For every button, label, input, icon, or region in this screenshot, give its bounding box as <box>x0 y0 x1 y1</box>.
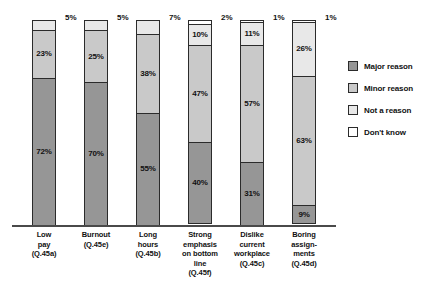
category-label-line: (Q.45b) <box>123 249 173 259</box>
outside-value-label-low-pay: 5% <box>65 14 77 22</box>
bar-segment-bottom-line-3: 40% <box>188 142 212 224</box>
category-label-line: current <box>227 240 277 250</box>
bar-segment-low-pay-2: 72% <box>32 78 56 226</box>
legend-item-1: Minor reason <box>348 77 444 99</box>
axis-baseline <box>12 225 336 227</box>
outside-value-label-bottom-line: 2% <box>221 14 233 22</box>
bar-dislike-workplace: 11%57%31% <box>240 14 264 226</box>
category-label-low-pay: Lowpay(Q.45a) <box>19 230 69 259</box>
bar-low-pay: 23%72% <box>32 14 56 226</box>
category-label-burnout: Burnout(Q.45e) <box>71 230 121 249</box>
bar-segment-dislike-workplace-1: 11% <box>240 22 264 45</box>
bar-segment-burnout-2: 70% <box>84 82 108 226</box>
category-label-line: Boring <box>279 230 329 240</box>
legend-item-0: Major reason <box>348 55 444 77</box>
bar-long-hours: 38%55% <box>136 14 160 226</box>
category-label-line: (Q.45e) <box>71 240 121 250</box>
category-label-line: Strong <box>175 230 225 240</box>
category-label-bottom-line: Strongemphasison bottomline(Q.45f) <box>175 230 225 278</box>
segment-value-label: 40% <box>192 179 207 187</box>
category-label-line: Burnout <box>71 230 121 240</box>
category-label-line: (Q.45c) <box>227 259 277 269</box>
segment-value-label: 25% <box>88 53 103 61</box>
bar-segment-long-hours-0 <box>136 20 160 34</box>
bar-segment-boring-assignments-1: 26% <box>292 22 316 76</box>
bar-stack: 23%72% <box>32 20 56 226</box>
segment-value-label: 10% <box>192 31 207 39</box>
bar-stack: 26%63%9% <box>292 20 316 226</box>
category-label-line: Dislike <box>227 230 277 240</box>
segment-value-label: 63% <box>296 137 311 145</box>
bar-stack: 10%47%40% <box>188 20 212 226</box>
category-label-line: emphasis <box>175 240 225 250</box>
legend-label: Not a reason <box>364 106 411 115</box>
bar-segment-low-pay-1: 23% <box>32 30 56 77</box>
bar-segment-boring-assignments-2: 63% <box>292 76 316 206</box>
segment-value-label: 11% <box>245 30 260 38</box>
bar-segment-burnout-0 <box>84 20 108 30</box>
segment-value-label: 26% <box>296 45 311 53</box>
legend-item-2: Not a reason <box>348 99 444 121</box>
bar-segment-dislike-workplace-2: 57% <box>240 45 264 162</box>
outside-value-label-long-hours: 7% <box>169 14 181 22</box>
segment-value-label: 72% <box>36 148 51 156</box>
bar-boring-assignments: 26%63%9% <box>292 14 316 226</box>
bar-segment-bottom-line-1: 10% <box>188 24 212 45</box>
stacked-bar-chart: 23%72%5%25%70%5%38%55%7%10%47%40%2%11%57… <box>0 0 444 293</box>
legend-swatch-icon <box>348 105 358 115</box>
bar-segment-long-hours-1: 38% <box>136 34 160 112</box>
category-label-line: pay <box>19 240 69 250</box>
legend-label: Don't know <box>364 128 406 137</box>
bar-stack: 38%55% <box>136 20 160 226</box>
category-axis-labels: Lowpay(Q.45a)Burnout(Q.45e)Longhours(Q.4… <box>18 230 328 290</box>
segment-value-label: 47% <box>192 90 207 98</box>
category-label-line: Long <box>123 230 173 240</box>
category-label-line: hours <box>123 240 173 250</box>
outside-value-label-burnout: 5% <box>117 14 129 22</box>
category-label-boring-assignments: Boringassign-ments(Q.45d) <box>279 230 329 268</box>
category-label-line: (Q.45f) <box>175 268 225 278</box>
legend-label: Major reason <box>364 62 413 71</box>
bar-segment-long-hours-2: 55% <box>136 113 160 226</box>
segment-value-label: 57% <box>244 100 259 108</box>
category-label-long-hours: Longhours(Q.45b) <box>123 230 173 259</box>
segment-value-label: 70% <box>88 150 103 158</box>
legend-swatch-icon <box>348 83 358 93</box>
segment-value-label: 31% <box>244 190 259 198</box>
legend-item-3: Don't know <box>348 121 444 143</box>
category-label-line: ments <box>279 249 329 259</box>
segment-value-label: 9% <box>298 211 309 219</box>
plot-area: 23%72%5%25%70%5%38%55%7%10%47%40%2%11%57… <box>18 14 328 226</box>
segment-value-label: 23% <box>36 50 51 58</box>
legend-label: Minor reason <box>364 84 413 93</box>
bar-stack: 11%57%31% <box>240 20 264 226</box>
segment-value-label: 55% <box>140 165 155 173</box>
bar-stack: 25%70% <box>84 20 108 226</box>
outside-value-label-dislike-workplace: 1% <box>273 14 285 22</box>
category-label-line: assign- <box>279 240 329 250</box>
category-label-line: (Q.45d) <box>279 259 329 269</box>
category-label-line: line <box>175 259 225 269</box>
legend-swatch-icon <box>348 61 358 71</box>
bar-segment-dislike-workplace-3: 31% <box>240 162 264 226</box>
category-label-line: (Q.45a) <box>19 249 69 259</box>
bar-burnout: 25%70% <box>84 14 108 226</box>
category-label-line: workplace <box>227 249 277 259</box>
chart-legend: Major reasonMinor reasonNot a reasonDon'… <box>348 55 444 143</box>
category-label-line: on bottom <box>175 249 225 259</box>
category-label-line: Low <box>19 230 69 240</box>
bar-segment-bottom-line-2: 47% <box>188 45 212 142</box>
category-label-dislike-workplace: Dislikecurrentworkplace(Q.45c) <box>227 230 277 268</box>
legend-swatch-icon <box>348 127 358 137</box>
segment-value-label: 38% <box>140 70 155 78</box>
bar-segment-low-pay-0 <box>32 20 56 30</box>
bar-bottom-line: 10%47%40% <box>188 14 212 226</box>
bar-segment-burnout-1: 25% <box>84 30 108 82</box>
outside-value-label-boring-assignments: 1% <box>325 14 337 22</box>
bar-segment-boring-assignments-3: 9% <box>292 205 316 224</box>
